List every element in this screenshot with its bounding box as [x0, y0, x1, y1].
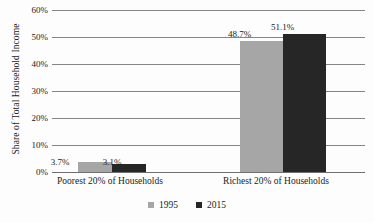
y-tick-label-50: 50%	[0, 33, 48, 42]
axis-baseline	[52, 172, 365, 173]
category-label-poorest: Poorest 20% of Households	[30, 176, 190, 186]
bar-richest-2015[interactable]	[283, 34, 326, 172]
legend-label-2015: 2015	[207, 200, 226, 210]
legend: 1995 2015	[0, 200, 374, 210]
legend-item-1995[interactable]: 1995	[148, 200, 178, 210]
legend-swatch-icon-1995	[148, 202, 154, 208]
plot-area	[52, 10, 365, 172]
value-label-poorest-2015: 3.1%	[95, 158, 129, 167]
bar-chart: Share of Total Household Income 60% 50% …	[0, 0, 374, 223]
gridline-60	[52, 10, 365, 11]
category-label-richest: Richest 20% of Households	[196, 176, 356, 186]
legend-item-2015[interactable]: 2015	[196, 200, 226, 210]
y-tick-label-60: 60%	[0, 6, 48, 15]
legend-label-1995: 1995	[159, 200, 178, 210]
y-tick-label-40: 40%	[0, 60, 48, 69]
value-label-poorest-1995: 3.7%	[43, 158, 77, 167]
y-tick-label-20: 20%	[0, 114, 48, 123]
value-label-richest-1995: 48.7%	[218, 30, 261, 39]
bar-richest-1995[interactable]	[240, 41, 283, 173]
legend-swatch-icon-2015	[196, 202, 202, 208]
y-tick-label-30: 30%	[0, 87, 48, 96]
y-tick-label-10: 10%	[0, 141, 48, 150]
value-label-richest-2015: 51.1%	[261, 23, 304, 32]
